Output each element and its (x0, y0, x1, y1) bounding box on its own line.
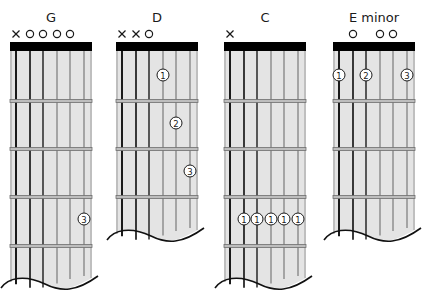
fret-line (10, 100, 92, 103)
fret-line (333, 196, 415, 199)
fret-line (116, 196, 198, 199)
finger-position: 1 (251, 213, 263, 225)
finger-number: 1 (281, 215, 286, 225)
fret-line (10, 245, 92, 248)
fretboard (224, 42, 306, 289)
fret-line (116, 148, 198, 151)
chord-e-minor: E minor123 (324, 10, 421, 241)
nut (333, 42, 415, 51)
finger-position: 3 (401, 69, 413, 81)
chord-d: D123 (107, 10, 204, 241)
finger-number: 1 (295, 215, 300, 225)
finger-number: 3 (81, 215, 86, 225)
fret-line (116, 100, 198, 103)
finger-number: 3 (187, 167, 192, 177)
muted-string-icon (13, 31, 20, 38)
chord-g: G3 (1, 10, 98, 289)
muted-string-icon (133, 31, 140, 38)
finger-position: 1 (265, 213, 277, 225)
finger-position: 3 (78, 213, 90, 225)
fret-line (224, 196, 306, 199)
fret-line (333, 100, 415, 103)
muted-string-icon (119, 31, 126, 38)
fretboard (10, 42, 92, 289)
finger-number: 1 (254, 215, 259, 225)
fret-line (10, 196, 92, 199)
finger-number: 1 (268, 215, 273, 225)
finger-number: 2 (363, 71, 368, 81)
finger-number: 2 (173, 119, 178, 129)
finger-position: 3 (184, 165, 196, 177)
open-string-icon (389, 30, 396, 37)
fret-line (224, 100, 306, 103)
chord-title: D (152, 10, 162, 25)
open-string-icon (26, 30, 33, 37)
chord-title: C (260, 10, 269, 25)
finger-position: 1 (157, 69, 169, 81)
finger-position: 1 (333, 69, 345, 81)
chord-c: C11111 (215, 10, 312, 289)
chord-title: E minor (349, 10, 400, 25)
finger-number: 1 (336, 71, 341, 81)
finger-position: 1 (238, 213, 250, 225)
fret-line (10, 148, 92, 151)
fretboard (116, 42, 198, 241)
open-string-icon (39, 30, 46, 37)
finger-position: 2 (170, 117, 182, 129)
open-string-icon (349, 30, 356, 37)
nut (116, 42, 198, 51)
finger-position: 1 (278, 213, 290, 225)
finger-number: 3 (404, 71, 409, 81)
fret-line (224, 148, 306, 151)
finger-number: 1 (241, 215, 246, 225)
fret-line (224, 245, 306, 248)
open-string-icon (53, 30, 60, 37)
muted-string-icon (227, 31, 234, 38)
finger-position: 1 (292, 213, 304, 225)
open-string-icon (66, 30, 73, 37)
chord-diagrams: G3D123C11111E minor123 (0, 0, 423, 302)
open-string-icon (376, 30, 383, 37)
chord-title: G (46, 10, 56, 25)
finger-position: 2 (360, 69, 372, 81)
fret-line (333, 148, 415, 151)
open-string-icon (145, 30, 152, 37)
finger-number: 1 (160, 71, 165, 81)
nut (224, 42, 306, 51)
nut (10, 42, 92, 51)
